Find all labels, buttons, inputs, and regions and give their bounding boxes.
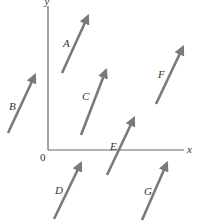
origin-label: 0 <box>40 151 46 163</box>
y-axis-label: y <box>44 0 50 7</box>
vector-group: ABCDEFG <box>8 16 183 220</box>
vector-e: E <box>107 118 134 175</box>
coordinate-axes: yx0 <box>40 0 192 163</box>
x-axis-label: x <box>186 143 192 155</box>
vector-arrow-icon <box>81 70 106 135</box>
vector-a: A <box>62 16 88 73</box>
vector-diagram: yx0 ABCDEFG <box>0 0 200 224</box>
vector-c: C <box>81 70 106 135</box>
vector-label: D <box>54 184 63 196</box>
vector-label: F <box>157 68 165 80</box>
vector-f: F <box>156 47 183 104</box>
vector-g: G <box>142 163 167 220</box>
vector-label: B <box>9 100 16 112</box>
vector-label: E <box>109 140 117 152</box>
vector-label: A <box>62 37 70 49</box>
vector-label: G <box>144 185 152 197</box>
vector-d: D <box>54 163 81 219</box>
vector-label: C <box>82 90 90 102</box>
vector-b: B <box>8 75 35 133</box>
